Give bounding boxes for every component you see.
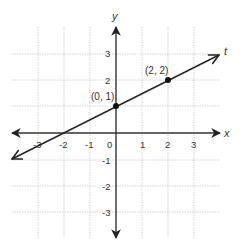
svg-text:2: 2 — [105, 75, 110, 86]
svg-text:3: 3 — [105, 48, 110, 59]
line-t-label: t — [224, 45, 228, 57]
point-2-2-label: (2, 2) — [145, 65, 168, 76]
point-0-1-label: (0, 1) — [91, 91, 114, 102]
svg-text:-1: -1 — [85, 139, 93, 150]
svg-text:2: 2 — [165, 139, 170, 150]
svg-text:0: 0 — [107, 139, 112, 150]
x-tick-labels: -3 -2 -1 0 1 2 3 — [33, 139, 196, 150]
svg-text:-1: -1 — [102, 155, 110, 166]
svg-text:-3: -3 — [102, 207, 110, 218]
svg-text:-2: -2 — [102, 181, 110, 192]
svg-text:3: 3 — [191, 139, 196, 150]
coordinate-plane: x y -3 -2 -1 0 1 2 3 3 2 -1 -2 -3 t (0, … — [0, 0, 242, 252]
point-2-2 — [165, 77, 171, 83]
point-0-1 — [113, 103, 119, 109]
svg-text:1: 1 — [140, 139, 145, 150]
x-axis-label: x — [223, 127, 230, 139]
svg-text:-2: -2 — [59, 139, 67, 150]
y-axis-label: y — [111, 10, 119, 22]
